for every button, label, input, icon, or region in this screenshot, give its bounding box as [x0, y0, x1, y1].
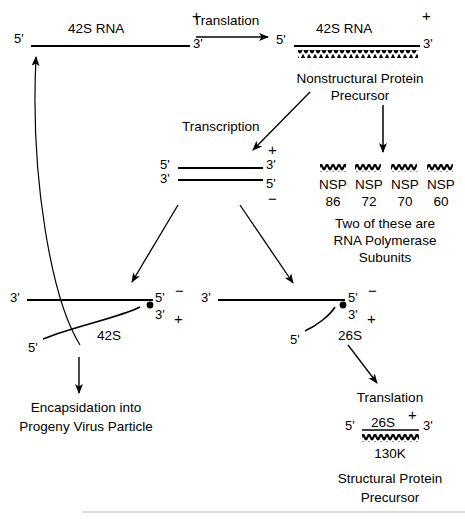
synthesis-26s-minus-polarity: −	[368, 282, 377, 300]
nonstructural-protein-bar	[298, 50, 418, 58]
nsp-size-70: 70	[397, 194, 412, 210]
nsp-name-60: NSP	[427, 177, 455, 193]
genome-top-5prime-label: 5'	[14, 31, 24, 46]
synthesis-42s-plus-polarity: +	[174, 310, 183, 328]
transcription-label: Transcription	[182, 119, 260, 135]
nonstructural-precursor-line2: Precursor	[331, 88, 390, 104]
synthesis-42s-name: 42S	[97, 328, 121, 344]
nascent-26s-strand	[305, 307, 335, 331]
nsp-name-72: NSP	[355, 177, 383, 193]
synthesis-42s-template-5prime: 5'	[155, 290, 165, 305]
rf-to-26s-arrow	[240, 205, 293, 283]
synthesis-26s-template-3prime: 3'	[201, 290, 211, 305]
rf-3prime-bottom-label: 3'	[160, 171, 170, 186]
structural-precursor-line2: Precursor	[361, 490, 420, 506]
synthesis-42s-nascent-5prime: 5'	[28, 340, 38, 355]
nsp-note-line3: Subunits	[359, 250, 412, 266]
genome-translated-3prime-label: 3'	[423, 36, 433, 51]
rf-3prime-top-label: 3'	[266, 157, 276, 172]
nsp-size-86: 86	[325, 194, 340, 210]
translation-label-1: Translation	[193, 13, 259, 29]
synthesis-26s-nascent-3prime: 3'	[348, 307, 358, 322]
rf-plus-polarity: +	[268, 141, 277, 159]
nsp-bar-72	[355, 164, 381, 172]
nsp-name-86: NSP	[319, 177, 347, 193]
structural-protein-bar	[362, 434, 419, 442]
nsp-note-line1: Two of these are	[335, 216, 435, 232]
encapsidation-line1: Encapsidation into	[31, 400, 141, 416]
genome-top-name: 42S RNA	[68, 21, 124, 37]
synthesis-26s-template-5prime: 5'	[348, 290, 358, 305]
mrna-26s-polarity: +	[408, 406, 417, 424]
diagram-canvas: 5' 3' 42S RNA + Translation 5' 3' 42S RN…	[0, 0, 465, 520]
translation-label-2: Translation	[357, 390, 423, 406]
nsp-size-60: 60	[433, 194, 448, 210]
structural-precursor-line1: Structural Protein	[338, 471, 442, 487]
encapsidation-line2: Progeny Virus Particle	[19, 419, 152, 435]
nonstructural-precursor-line1: Nonstructural Protein	[297, 71, 424, 87]
nsp-note-line2: RNA Polymerase	[334, 233, 437, 249]
rf-to-42s-arrow	[132, 205, 178, 282]
mrna-26s-name: 26S	[371, 415, 395, 431]
nascent-42s-strand	[43, 307, 140, 339]
mrna-26s-3prime-label: 3'	[423, 418, 433, 433]
rf-minus-polarity: −	[268, 190, 277, 208]
nsp-bar-70	[391, 164, 417, 172]
mrna-26s-5prime-label: 5'	[345, 418, 355, 433]
polymerase-dot-42s	[147, 302, 154, 309]
synthesis-26s-name: 26S	[338, 328, 362, 344]
synthesis-42s-template-3prime: 3'	[10, 290, 20, 305]
synthesis-42s-nascent-3prime: 3'	[155, 307, 165, 322]
genome-top-3prime-label: 3'	[193, 36, 203, 51]
synthesis-26s-plus-polarity: +	[367, 310, 376, 328]
nsp-bar-86	[320, 164, 346, 172]
genome-translated-name: 42S RNA	[316, 21, 372, 37]
genome-translated-5prime-label: 5'	[276, 32, 286, 47]
progeny-recycle-arrow	[35, 57, 80, 345]
nsp-bar-60	[427, 164, 453, 172]
nsp-name-70: NSP	[391, 177, 419, 193]
structural-protein-size: 130K	[374, 446, 406, 462]
genome-translated-polarity: +	[422, 7, 431, 25]
26s-to-translation-arrow	[348, 345, 377, 383]
synthesis-26s-nascent-5prime: 5'	[290, 332, 300, 347]
polymerase-dot-26s	[340, 302, 347, 309]
precursor-to-rf-arrow	[253, 92, 310, 150]
synthesis-42s-minus-polarity: −	[175, 282, 184, 300]
nsp-size-72: 72	[361, 194, 376, 210]
